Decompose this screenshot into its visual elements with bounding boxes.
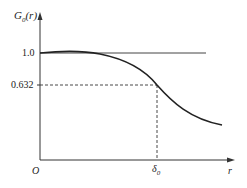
chart: G0(r) 1.0 0.632 O δ0 r xyxy=(0,0,247,188)
y-tick-label-1: 1.0 xyxy=(22,48,35,58)
x-axis-arrow-icon xyxy=(227,158,235,163)
plot-area xyxy=(0,0,247,188)
curve-g0 xyxy=(40,51,222,125)
x-axis-label: r xyxy=(228,166,232,176)
origin-label: O xyxy=(32,166,39,176)
y-axis-arrow-icon xyxy=(38,12,43,20)
y-tick-label-0632: 0.632 xyxy=(11,80,34,90)
x-tick-label-delta0: δ0 xyxy=(152,164,160,178)
y-axis-label: G0(r) xyxy=(14,10,37,25)
